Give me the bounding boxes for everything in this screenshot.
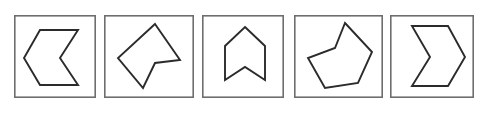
panel-1[interactable]: [14, 15, 96, 98]
panel-2-graphic: [104, 15, 194, 98]
panel-2[interactable]: [104, 15, 194, 98]
panel-1-graphic: [14, 15, 96, 98]
panel-4[interactable]: [294, 15, 383, 98]
panel-3-graphic: [202, 15, 284, 98]
panel-5-graphic: [390, 15, 474, 98]
panel-5[interactable]: [390, 15, 474, 98]
panel-4-graphic: [294, 15, 383, 98]
panel-3[interactable]: [202, 15, 284, 98]
shape-strip-canvas: [0, 0, 477, 115]
